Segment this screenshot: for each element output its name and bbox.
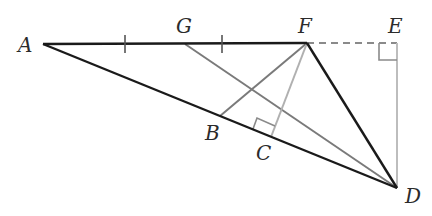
label-G: G: [176, 14, 192, 38]
segment-AD: [43, 44, 397, 188]
segment-AF: [43, 43, 307, 44]
label-D: D: [404, 184, 421, 208]
label-A: A: [16, 33, 32, 57]
right-angle-marker-E: [379, 43, 397, 60]
label-E: E: [387, 14, 403, 38]
geometry-diagram: A G F E B C D: [0, 0, 432, 216]
label-B: B: [204, 121, 220, 145]
segment-FD: [307, 43, 397, 188]
segment-GD: [185, 44, 397, 188]
right-angle-marker-C: [253, 118, 275, 129]
label-C: C: [256, 141, 271, 165]
label-F: F: [297, 14, 313, 38]
